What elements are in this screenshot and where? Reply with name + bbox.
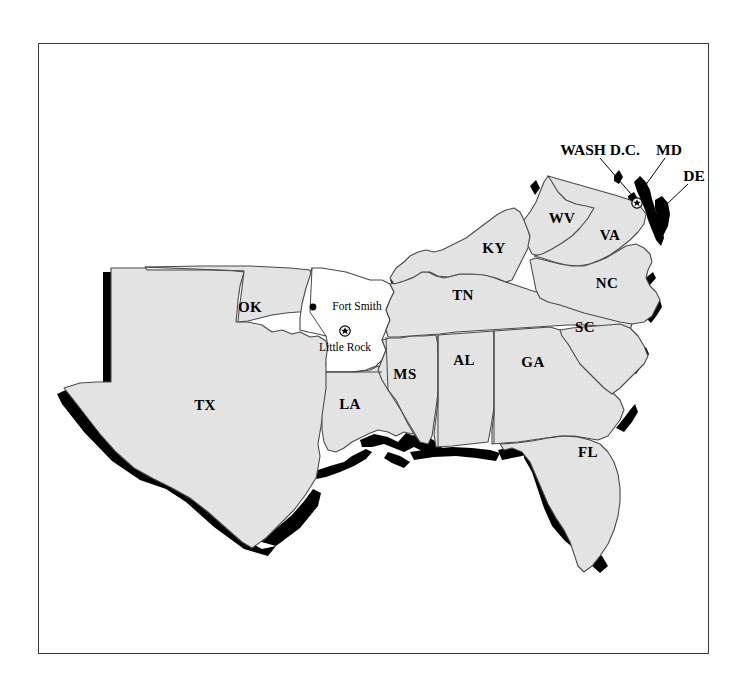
callout-label-md: MD bbox=[656, 141, 682, 159]
state-label-ga: GA bbox=[521, 354, 544, 371]
state-label-sc: SC bbox=[575, 319, 595, 336]
state-label-nc: NC bbox=[596, 275, 618, 292]
state-label-va: VA bbox=[600, 227, 621, 244]
state-label-tn: TN bbox=[452, 287, 474, 304]
leader-line-md bbox=[645, 158, 665, 186]
state-label-la: LA bbox=[339, 396, 361, 413]
state-label-fl: FL bbox=[578, 444, 598, 461]
map-graphic bbox=[0, 0, 747, 691]
state-label-al: AL bbox=[453, 352, 475, 369]
state-label-ok: OK bbox=[238, 299, 262, 316]
city-label-fort-smith: Fort Smith bbox=[332, 300, 382, 312]
state-label-ky: KY bbox=[482, 240, 505, 257]
fort-smith-dot-marker bbox=[310, 304, 317, 311]
states-land-layer bbox=[64, 176, 660, 572]
state-label-ms: MS bbox=[393, 366, 416, 383]
callout-label-de: DE bbox=[683, 167, 705, 185]
map-figure: OK TX LA MS AL GA FL TN KY WV VA NC SC W… bbox=[0, 0, 747, 691]
leader-line-de bbox=[666, 184, 688, 205]
callout-label-wash-dc: WASH D.C. bbox=[560, 141, 640, 159]
state-shape-al bbox=[434, 331, 494, 447]
little-rock-capital-marker bbox=[340, 326, 350, 336]
state-label-tx: TX bbox=[194, 397, 216, 414]
washington-dc-capital-marker bbox=[632, 198, 642, 208]
state-shape-ky bbox=[390, 208, 530, 284]
state-label-wv: WV bbox=[549, 210, 576, 227]
city-label-little-rock: Little Rock bbox=[319, 341, 371, 353]
